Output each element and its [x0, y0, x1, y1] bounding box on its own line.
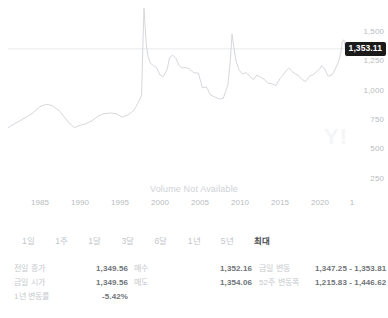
stat-label: 금일 변동 [259, 262, 315, 273]
range-button-2[interactable]: 1달 [88, 233, 101, 247]
stat-row: 금일 변동1,347.25 - 1,353.81 [259, 262, 388, 276]
y-tick-2: 1,000 [363, 86, 384, 95]
stat-value: 1,354.06 [192, 278, 252, 287]
x-tick-6: 2015 [271, 198, 289, 207]
y-tick-4: 500 [370, 144, 384, 153]
chart-canvas [0, 6, 388, 196]
y-tick-5: 250 [370, 174, 384, 183]
range-selector: 1일1주1달3달6달1년5년최대 [0, 229, 388, 251]
x-tick-7: 2020 [311, 198, 329, 207]
stats-table: 전일 종가1,349.56금일 시가1,349.561년 변동률-5.42% 매… [0, 262, 388, 304]
stat-value: 1,352.16 [192, 264, 252, 273]
stat-value: -5.42% [76, 292, 128, 301]
range-button-7[interactable]: 최대 [254, 233, 270, 247]
range-button-5[interactable]: 1년 [188, 233, 201, 247]
x-tick-3: 2000 [151, 198, 169, 207]
stat-label: 매수 [134, 262, 192, 273]
price-chart[interactable]: 1,500 1,250 1,000 750 500 250 1,353.11 Y… [0, 6, 388, 196]
y-tick-1: 1,250 [363, 56, 384, 65]
volume-unavailable-note: Volume Not Available [0, 184, 388, 194]
x-tick-8: 1 [350, 198, 355, 207]
stat-label: 매도 [134, 276, 192, 287]
range-button-0[interactable]: 1일 [22, 233, 35, 247]
stats-column-a: 전일 종가1,349.56금일 시가1,349.561년 변동률-5.42% [14, 262, 134, 304]
stat-row: 매도1,354.06 [134, 276, 259, 290]
stat-row: 전일 종가1,349.56 [14, 262, 134, 276]
stat-row: 금일 시가1,349.56 [14, 276, 134, 290]
range-button-6[interactable]: 5년 [221, 233, 234, 247]
x-tick-2: 1995 [111, 198, 129, 207]
range-button-3[interactable]: 3달 [121, 233, 134, 247]
y-tick-0: 1,500 [363, 27, 384, 36]
stat-label: 전일 종가 [14, 262, 76, 273]
range-button-1[interactable]: 1주 [55, 233, 68, 247]
stat-row: 매수1,352.16 [134, 262, 259, 276]
stat-value: 1,215.83 - 1,446.62 [315, 278, 386, 287]
range-button-4[interactable]: 6달 [155, 233, 168, 247]
x-tick-4: 2005 [191, 198, 209, 207]
stat-label: 1년 변동률 [14, 290, 76, 301]
stat-value: 1,347.25 - 1,353.81 [315, 264, 386, 273]
y-tick-3: 750 [370, 115, 384, 124]
stat-row: 1년 변동률-5.42% [14, 290, 134, 304]
stats-column-c: 금일 변동1,347.25 - 1,353.8152주 변동폭1,215.83 … [259, 262, 388, 304]
stat-label: 금일 시가 [14, 276, 76, 287]
stat-label: 52주 변동폭 [259, 276, 315, 287]
stat-value: 1,349.56 [76, 264, 128, 273]
x-tick-1: 1990 [71, 198, 89, 207]
stat-row: 52주 변동폭1,215.83 - 1,446.62 [259, 276, 388, 290]
x-tick-5: 2010 [231, 198, 249, 207]
x-tick-0: 1985 [31, 198, 49, 207]
finance-chart-widget: 1,500 1,250 1,000 750 500 250 1,353.11 Y… [0, 0, 388, 318]
price-line [8, 8, 354, 127]
current-price-badge: 1,353.11 [345, 42, 386, 56]
x-axis: 198519901995200020052010201520201 [0, 198, 388, 216]
stat-value: 1,349.56 [76, 278, 128, 287]
stats-column-b: 매수1,352.16매도1,354.06 [134, 262, 259, 304]
